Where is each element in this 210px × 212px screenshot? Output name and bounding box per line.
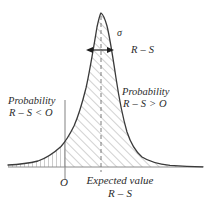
right-region-label-line1: Probability [122, 86, 169, 98]
sigma-label: σ [117, 27, 122, 39]
right-region-label-line2: R – S > O [122, 98, 169, 110]
main-density-area [8, 13, 203, 167]
right-region-label: Probability R – S > O [122, 86, 169, 111]
expected-value-label-line1: Expected value [70, 174, 170, 187]
origin-label: O [60, 176, 68, 189]
sigma-span-label: R – S [131, 44, 154, 56]
left-region-label-line2: R – S < O [8, 107, 55, 119]
left-region-label-line1: Probability [8, 95, 55, 107]
expected-value-label: Expected value R – S [70, 174, 170, 200]
left-region-label: Probability R – S < O [8, 95, 55, 120]
probability-density-figure: Probability R – S < O Probability R – S … [0, 0, 210, 212]
expected-value-label-line2: R – S [70, 187, 170, 200]
